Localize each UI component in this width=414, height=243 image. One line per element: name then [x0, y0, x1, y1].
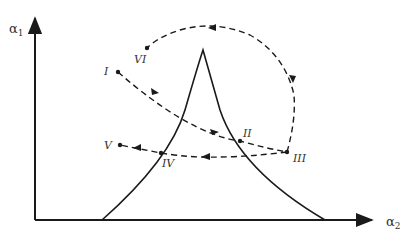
cusp-diagram: α1 α2 I II III IV V VI — [0, 0, 414, 243]
arrow-icon — [201, 153, 210, 160]
path-III-to-VI — [147, 26, 294, 152]
x-axis-label: α2 — [386, 214, 401, 231]
arrow-icon — [151, 88, 159, 95]
axes — [35, 18, 372, 220]
label-IV: IV — [161, 157, 175, 170]
label-I: I — [103, 65, 109, 78]
path-I-to-III — [118, 72, 287, 152]
label-VI: VI — [134, 53, 147, 66]
trajectories — [118, 26, 294, 157]
label-III: III — [292, 152, 307, 165]
arrow-icon — [133, 144, 141, 151]
point-VI — [145, 46, 149, 50]
point-IV — [159, 151, 163, 155]
y-axis-label: α1 — [9, 21, 24, 38]
point-III — [285, 150, 289, 154]
point-I — [116, 70, 120, 74]
point-II — [238, 139, 242, 143]
label-V: V — [104, 139, 113, 152]
label-II: II — [242, 127, 252, 140]
point-V — [118, 143, 122, 147]
arrow-icon — [208, 24, 216, 31]
